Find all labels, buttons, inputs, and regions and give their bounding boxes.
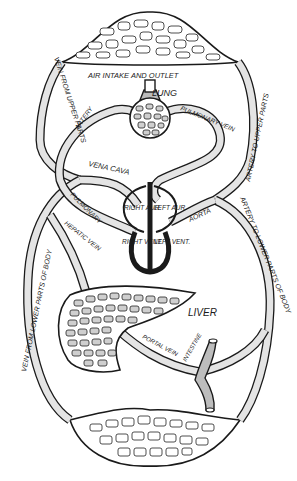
label-pulmonary: PULMONARY [69, 191, 103, 225]
label-left-aur: LEFT AUR. [154, 204, 187, 211]
label-lung: LUNG [152, 88, 177, 98]
intestine [195, 339, 217, 412]
upper-capillary-bed [62, 12, 238, 65]
label-vena-cava: VENA CAVA [88, 159, 131, 176]
label-intestine: INTESTINE [182, 331, 203, 362]
label-vein-upper: VEIN FROM UPPER PARTS [53, 56, 87, 144]
diagram-canvas: AIR INTAKE AND OUTLET LUNG ARTERY PULMON… [0, 0, 297, 481]
lower-capillary-bed [70, 408, 240, 466]
label-left-vent: LEFT VENT. [154, 238, 190, 245]
liver [58, 286, 195, 372]
label-air-intake: AIR INTAKE AND OUTLET [87, 71, 180, 80]
label-pulmonary-vein: PULMONARY VEIN [180, 104, 236, 132]
circulatory-diagram: AIR INTAKE AND OUTLET LUNG ARTERY PULMON… [0, 0, 297, 481]
label-liver: LIVER [188, 307, 217, 318]
